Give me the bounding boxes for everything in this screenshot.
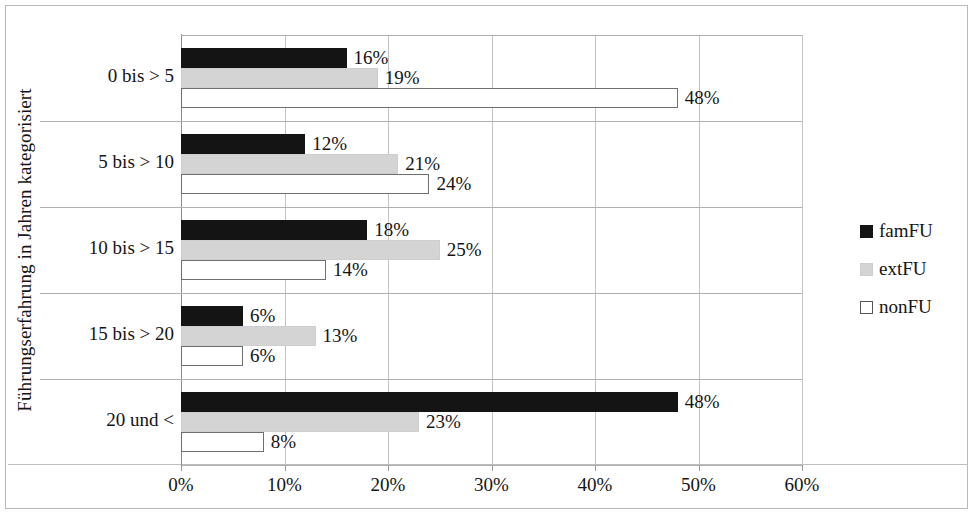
bar-value-label: 8% xyxy=(271,432,296,452)
legend-item-famFU: famFU xyxy=(860,212,933,250)
bar-famFU xyxy=(181,134,305,154)
x-axis-tick-label: 30% xyxy=(452,474,532,496)
y-axis-title-text: Führungserfahrung in Jahren kategorisier… xyxy=(14,88,36,411)
bar-value-label: 23% xyxy=(426,412,461,432)
legend-item-nonFU: nonFU xyxy=(860,288,933,326)
x-axis-tick-mark xyxy=(595,465,596,471)
bar-value-label: 21% xyxy=(405,154,440,174)
bar-value-label: 12% xyxy=(312,134,347,154)
bar-extFU xyxy=(181,154,398,174)
bar-nonFU xyxy=(181,88,678,108)
category-separator xyxy=(40,207,802,208)
bar-famFU xyxy=(181,392,678,412)
bar-value-label: 16% xyxy=(354,48,389,68)
x-axis-tick-label: 20% xyxy=(348,474,428,496)
bar-value-label: 48% xyxy=(685,88,720,108)
bar-value-label: 18% xyxy=(374,220,409,240)
bar-extFU xyxy=(181,412,419,432)
y-axis-category-label: 10 bis > 15 xyxy=(40,237,174,259)
x-axis-tick-label: 60% xyxy=(762,474,842,496)
bar-chart: Führungserfahrung in Jahren kategorisier… xyxy=(0,0,975,516)
x-axis-tick-label: 0% xyxy=(141,474,221,496)
x-axis-tick-label: 10% xyxy=(245,474,325,496)
x-axis-tick-mark xyxy=(285,465,286,471)
x-axis-tick-mark xyxy=(388,465,389,471)
bar-nonFU xyxy=(181,260,326,280)
plot-area: 16%19%48%12%21%24%18%25%14%6%13%6%48%23%… xyxy=(181,35,802,465)
x-axis-tick-mark xyxy=(699,465,700,471)
bar-nonFU xyxy=(181,174,429,194)
legend-swatch-famFU-icon xyxy=(860,225,873,238)
bar-value-label: 13% xyxy=(323,326,358,346)
x-axis-tick-mark xyxy=(181,465,182,471)
x-axis-tick-mark xyxy=(492,465,493,471)
legend-label-extFU: extFU xyxy=(879,258,927,280)
category-separator xyxy=(40,121,802,122)
bar-value-label: 14% xyxy=(333,260,368,280)
x-axis-tick-label: 50% xyxy=(659,474,739,496)
bar-extFU xyxy=(181,326,316,346)
bar-value-label: 6% xyxy=(250,346,275,366)
y-axis-category-label: 15 bis > 20 xyxy=(40,323,174,345)
bar-extFU xyxy=(181,240,440,260)
legend-item-extFU: extFU xyxy=(860,250,933,288)
y-axis-category-label: 5 bis > 10 xyxy=(40,151,174,173)
y-axis-category-label: 0 bis > 5 xyxy=(40,65,174,87)
category-separator xyxy=(181,35,802,36)
bar-famFU xyxy=(181,48,347,68)
bar-value-label: 24% xyxy=(436,174,471,194)
y-axis-title: Führungserfahrung in Jahren kategorisier… xyxy=(10,35,40,465)
legend-label-nonFU: nonFU xyxy=(879,296,932,318)
category-separator xyxy=(40,293,802,294)
bar-famFU xyxy=(181,220,367,240)
bar-extFU xyxy=(181,68,378,88)
x-axis-tick-label: 40% xyxy=(555,474,635,496)
y-axis-category-label: 20 und < xyxy=(40,409,174,431)
legend: famFU extFU nonFU xyxy=(860,212,933,326)
bar-value-label: 48% xyxy=(685,392,720,412)
legend-label-famFU: famFU xyxy=(879,220,933,242)
legend-swatch-nonFU-icon xyxy=(860,301,873,314)
category-separator xyxy=(40,379,802,380)
bar-nonFU xyxy=(181,432,264,452)
bar-value-label: 6% xyxy=(250,306,275,326)
bar-value-label: 19% xyxy=(385,68,420,88)
bar-value-label: 25% xyxy=(447,240,482,260)
gridline xyxy=(802,35,803,465)
bar-nonFU xyxy=(181,346,243,366)
bar-famFU xyxy=(181,306,243,326)
legend-swatch-extFU-icon xyxy=(860,263,873,276)
x-axis-tick-mark xyxy=(802,465,803,471)
